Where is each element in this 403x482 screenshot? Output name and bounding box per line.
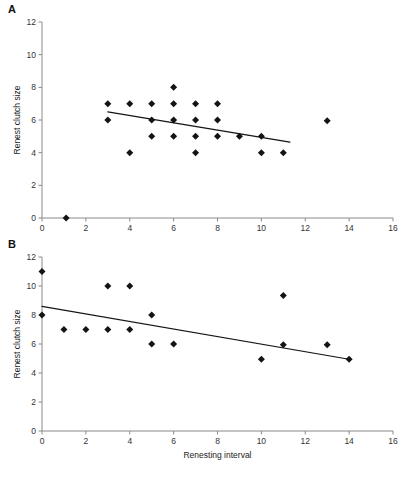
data-point-marker [170, 133, 177, 140]
data-point-marker [280, 149, 287, 156]
y-tick-label: 6 [31, 339, 36, 349]
x-tick-label: 4 [127, 436, 132, 446]
x-tick-label: 0 [40, 223, 45, 233]
data-point-marker [170, 341, 177, 348]
y-tick-label: 12 [27, 252, 37, 262]
data-point-marker [39, 268, 46, 275]
data-point-marker [324, 117, 331, 124]
y-axis-title: Renest clutch size [12, 85, 22, 154]
data-point-marker [39, 312, 46, 319]
data-point-marker [192, 149, 199, 156]
y-tick-label: 10 [27, 50, 37, 60]
data-point-marker [126, 326, 133, 333]
data-point-marker [214, 133, 221, 140]
panel-b: B 0246810120246810121416Renest clutch si… [0, 235, 403, 482]
data-point-marker [126, 283, 133, 290]
panel-b-plot: 0246810120246810121416Renest clutch size… [0, 235, 403, 482]
data-point-marker [104, 283, 111, 290]
data-point-marker [148, 100, 155, 107]
x-axis-title: Renesting interval [183, 450, 251, 460]
x-tick-label: 10 [257, 223, 267, 233]
data-point-marker [104, 326, 111, 333]
x-tick-label: 16 [388, 436, 398, 446]
data-point-marker [170, 84, 177, 91]
data-point-marker [258, 356, 265, 363]
y-tick-label: 4 [31, 148, 36, 158]
x-tick-label: 2 [84, 223, 89, 233]
x-tick-label: 8 [215, 436, 220, 446]
data-point-marker [324, 341, 331, 348]
data-point-marker [148, 117, 155, 124]
data-point-marker [82, 326, 89, 333]
data-point-marker [258, 149, 265, 156]
data-point-marker [148, 341, 155, 348]
y-tick-label: 6 [31, 115, 36, 125]
panel-a: A 0246810120246810121416Renest clutch si… [0, 0, 403, 241]
x-tick-label: 6 [171, 436, 176, 446]
y-tick-label: 0 [31, 213, 36, 223]
y-tick-label: 10 [27, 281, 37, 291]
data-point-marker [126, 149, 133, 156]
y-axis-title: Renest clutch size [12, 309, 22, 378]
y-tick-label: 4 [31, 368, 36, 378]
x-tick-label: 8 [215, 223, 220, 233]
y-tick-label: 0 [31, 426, 36, 436]
data-point-marker [214, 100, 221, 107]
panel-a-plot: 0246810120246810121416Renest clutch size [0, 0, 403, 241]
data-point-marker [60, 326, 67, 333]
data-point-marker [104, 100, 111, 107]
data-point-marker [170, 100, 177, 107]
regression-line [42, 306, 349, 359]
x-tick-label: 0 [40, 436, 45, 446]
x-tick-label: 16 [388, 223, 398, 233]
data-point-marker [258, 133, 265, 140]
data-point-marker [192, 100, 199, 107]
x-tick-label: 14 [344, 436, 354, 446]
data-point-marker [126, 100, 133, 107]
figure-container: A 0246810120246810121416Renest clutch si… [0, 0, 403, 482]
x-tick-label: 6 [171, 223, 176, 233]
y-tick-label: 2 [31, 180, 36, 190]
data-point-marker [280, 292, 287, 299]
x-tick-label: 4 [127, 223, 132, 233]
data-point-marker [214, 117, 221, 124]
data-point-marker [192, 133, 199, 140]
y-tick-label: 8 [31, 310, 36, 320]
x-tick-label: 10 [257, 436, 267, 446]
x-tick-label: 14 [344, 223, 354, 233]
data-point-marker [63, 215, 70, 222]
x-tick-label: 2 [84, 436, 89, 446]
x-tick-label: 12 [301, 436, 311, 446]
data-point-marker [148, 133, 155, 140]
y-tick-label: 12 [27, 17, 37, 27]
data-point-marker [192, 117, 199, 124]
y-tick-label: 2 [31, 397, 36, 407]
data-point-marker [104, 117, 111, 124]
data-point-marker [148, 312, 155, 319]
data-point-marker [346, 356, 353, 363]
x-tick-label: 12 [301, 223, 311, 233]
y-tick-label: 8 [31, 82, 36, 92]
